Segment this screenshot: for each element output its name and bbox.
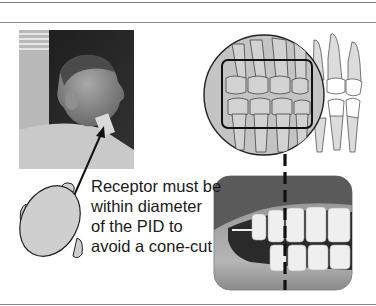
figure-canvas [0,0,376,306]
dentition-diagram [204,34,362,155]
mouth-photo [214,176,352,290]
head-diagram [8,175,92,267]
caption-line-2: within diameter [91,196,221,216]
caption-line-3: of the PID to [91,216,221,236]
caption-line-1: Receptor must be [91,176,221,196]
patient-photo [19,30,134,169]
caption-text: Receptor must be within diameter of the … [91,176,221,256]
caption-line-4: avoid a cone-cut [91,236,221,256]
